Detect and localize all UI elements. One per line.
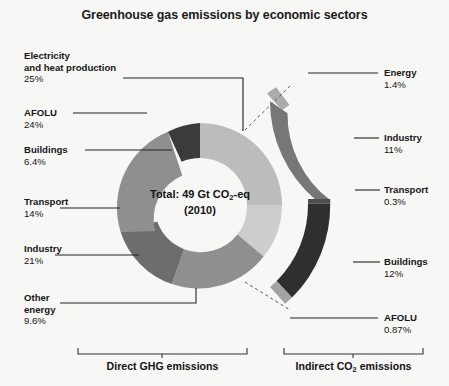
label-electricity-line1: Electricity (24, 50, 70, 61)
label-industry-direct: Industry 21% (24, 243, 62, 266)
label-buildings-direct-percent: 6.4% (24, 156, 68, 168)
caption-direct-ghg-emissions: Direct GHG emissions (78, 360, 247, 372)
label-industry-indirect-name: Industry (384, 132, 422, 143)
label-energy-indirect-name: Energy (384, 67, 417, 78)
caption-indirect-prefix: Indirect CO (296, 360, 353, 372)
center-total-prefix: Total: 49 Gt CO (150, 188, 229, 200)
caption-indirect-subscript: 2 (353, 365, 357, 374)
label-afolu-indirect-name: AFOLU (384, 312, 417, 323)
label-industry-direct-percent: 21% (24, 255, 62, 267)
label-energy-indirect-percent: 1.4% (384, 79, 417, 91)
leader-line-other-energy (60, 288, 196, 303)
label-transport-indirect: Transport 0.3% (384, 184, 428, 207)
label-other-energy-percent: 9.6% (24, 315, 55, 327)
chart-figure: Greenhouse gas emissions by economic sec… (0, 0, 449, 386)
label-electricity-percent: 25% (24, 73, 116, 85)
label-electricity-line2: and heat production (24, 62, 116, 73)
label-other-energy: Other energy 9.6% (24, 292, 55, 327)
label-buildings-direct: Buildings 6.4% (24, 144, 68, 167)
arc-slice-buildings (277, 204, 331, 298)
caption-indirect-suffix: emissions (357, 360, 412, 372)
bottom-brackets (78, 348, 423, 358)
caption-indirect-co2-emissions: Indirect CO2 emissions (284, 360, 423, 372)
center-total-subscript: 2 (229, 193, 233, 202)
label-industry-indirect-percent: 11% (384, 144, 422, 156)
donut-center-total: Total: 49 Gt CO2-eq (2010) (130, 187, 270, 218)
label-other-energy-line2: energy (24, 304, 55, 315)
label-afolu-direct: AFOLU 24% (24, 107, 57, 130)
label-other-energy-line1: Other (24, 292, 50, 303)
caption-direct-text: Direct GHG emissions (107, 360, 219, 372)
bracket-direct (78, 348, 247, 358)
center-total-suffix: -eq (233, 188, 250, 200)
label-buildings-indirect: Buildings 12% (384, 256, 428, 279)
label-transport-indirect-percent: 0.3% (384, 196, 428, 208)
label-industry-indirect: Industry 11% (384, 132, 422, 155)
label-energy-indirect: Energy 1.4% (384, 67, 417, 90)
label-transport-indirect-name: Transport (384, 184, 428, 195)
label-afolu-direct-percent: 24% (24, 119, 57, 131)
label-buildings-indirect-name: Buildings (384, 256, 428, 267)
leader-line-electricity (123, 78, 243, 131)
label-transport-direct: Transport 14% (24, 196, 68, 219)
label-industry-direct-name: Industry (24, 243, 62, 254)
arc-slice-transport (308, 199, 330, 204)
label-afolu-direct-name: AFOLU (24, 107, 57, 118)
bracket-indirect (284, 348, 423, 358)
label-transport-direct-percent: 14% (24, 208, 68, 220)
center-total-year: (2010) (184, 204, 216, 216)
label-afolu-indirect: AFOLU 0.87% (384, 312, 417, 335)
label-electricity-and-heat-production: Electricity and heat production 25% (24, 50, 116, 85)
label-afolu-indirect-percent: 0.87% (384, 324, 417, 336)
label-buildings-indirect-percent: 12% (384, 268, 428, 280)
label-transport-direct-name: Transport (24, 196, 68, 207)
label-buildings-direct-name: Buildings (24, 144, 68, 155)
